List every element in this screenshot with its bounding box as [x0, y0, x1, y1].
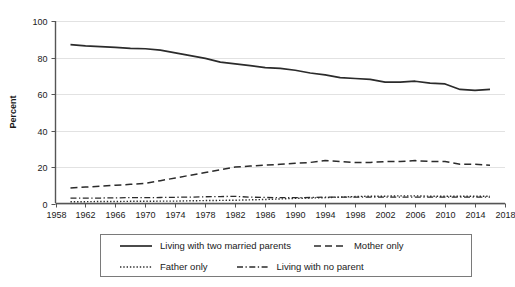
legend-item-living-with-no-parent: Living with no parent [236, 261, 364, 272]
x-tick-label: 1970 [135, 210, 155, 220]
legend-label: Living with no parent [277, 261, 364, 272]
legend-item-living-with-two-married-parents: Living with two married parents [119, 240, 291, 251]
data-series-group [70, 45, 490, 202]
legend-label: Father only [160, 261, 208, 272]
y-tick-label: 0 [42, 200, 47, 210]
x-tick-label: 2002 [375, 210, 395, 220]
x-tick-label: 1974 [165, 210, 185, 220]
y-tick-label: 60 [37, 90, 47, 100]
x-tick-label: 2010 [435, 210, 455, 220]
x-tick-label: 2018 [495, 210, 515, 220]
y-tick-label: 40 [37, 127, 47, 137]
series-line-father-only [70, 196, 490, 202]
legend-swatch-dashdot-icon [236, 262, 270, 272]
x-tick-label: 1998 [345, 210, 365, 220]
x-tick-label: 1966 [105, 210, 125, 220]
legend-row: Living with two married parents Mother o… [101, 235, 471, 256]
y-tick-label: 20 [37, 163, 47, 173]
legend-swatch-solid-icon [119, 241, 153, 251]
legend-item-father-only: Father only [119, 261, 208, 272]
legend-swatch-dotted-icon [119, 262, 153, 272]
x-tick-label: 2014 [465, 210, 485, 220]
y-tick-label: 80 [37, 54, 47, 64]
legend-swatch-dashed-icon [313, 241, 347, 251]
x-tick-label: 1962 [75, 210, 95, 220]
x-tick-label: 1958 [46, 210, 66, 220]
y-axis: 020406080100 [32, 17, 55, 210]
x-tick-label: 1990 [285, 210, 305, 220]
gridlines [56, 22, 506, 205]
legend-label: Mother only [354, 240, 404, 251]
series-line-mother-only [70, 161, 490, 188]
x-axis: 1958196219661970197419781982198619901994… [46, 204, 515, 220]
legend-item-mother-only: Mother only [313, 240, 404, 251]
x-tick-label: 1982 [225, 210, 245, 220]
chart-container: 020406080100 195819621966197019741978198… [0, 0, 515, 287]
y-tick-label: 100 [32, 17, 47, 27]
legend-label: Living with two married parents [160, 240, 291, 251]
y-axis-label: Percent [8, 95, 18, 128]
x-tick-label: 1978 [195, 210, 215, 220]
x-tick-label: 1986 [255, 210, 275, 220]
chart-legend: Living with two married parents Mother o… [100, 234, 472, 277]
x-tick-label: 2006 [405, 210, 425, 220]
series-line-living-with-two-married-parents [70, 45, 490, 91]
legend-row: Father only Living with no parent [101, 256, 471, 277]
x-tick-label: 1994 [315, 210, 335, 220]
